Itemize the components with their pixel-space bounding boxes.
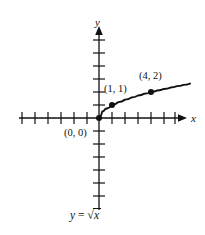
marker-origin [96,115,102,121]
point-4-2-label: (4, 2) [139,71,162,82]
marker-4-2 [148,89,154,95]
function-equation-label: y = √x [70,208,101,222]
radicand: x [93,208,101,221]
sqrt-function-graph-figure: y x (1, 1) (4, 2) (0, 0) y = √x [0,0,205,235]
x-axis-arrowhead [178,114,187,122]
marker-1-1 [109,102,115,108]
y-axis-label: y [95,17,100,28]
equation-lhs: y [70,209,75,221]
point-1-1-label: (1, 1) [104,84,127,95]
equation-operator: = [78,209,85,221]
x-axis-label: x [191,113,196,124]
cartesian-plot-svg [0,0,205,235]
origin-point-label: (0, 0) [64,128,87,139]
